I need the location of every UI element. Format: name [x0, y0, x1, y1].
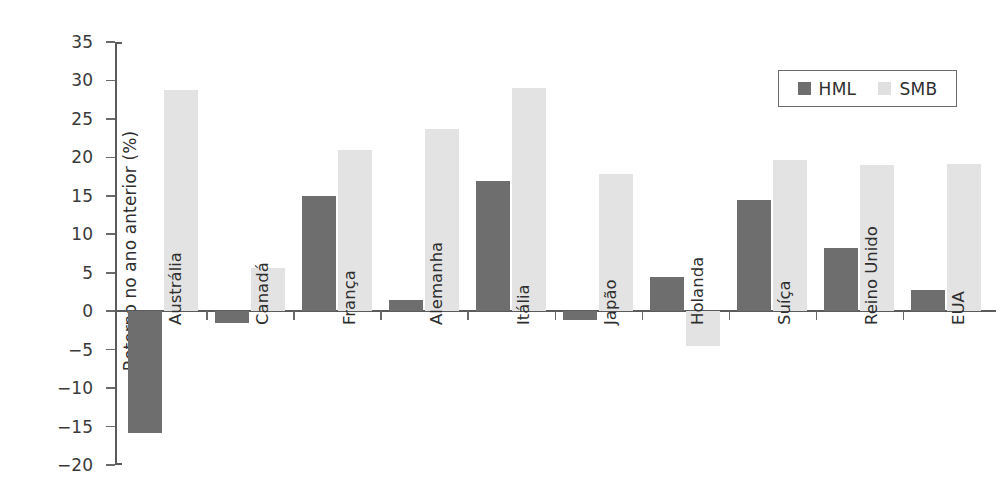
y-tick-label: −5	[68, 340, 93, 360]
x-tick	[555, 311, 557, 320]
y-tick-label: 5	[82, 263, 93, 283]
x-tick	[816, 311, 818, 320]
y-tick-25	[106, 118, 115, 120]
bar-smb-4	[512, 88, 546, 311]
y-tick--15	[106, 426, 115, 428]
bar-hml-5	[563, 311, 597, 320]
y-tick-0	[106, 310, 115, 312]
y-tick-label: 35	[71, 32, 93, 52]
y-axis-spine	[115, 42, 117, 465]
y-axis-cap-bottom	[115, 463, 122, 465]
bar-hml-7	[737, 200, 771, 312]
x-tick	[293, 311, 295, 320]
bar-hml-2	[302, 196, 336, 311]
category-label-1: Canadá	[253, 262, 272, 325]
category-label-3: Alemanha	[427, 242, 446, 325]
y-tick-label: 30	[71, 70, 93, 90]
y-axis-cap-top	[115, 42, 122, 44]
y-tick-label: 15	[71, 186, 93, 206]
y-tick-label: −10	[57, 378, 93, 398]
y-tick--20	[106, 464, 115, 466]
x-tick	[206, 311, 208, 320]
category-label-6: Holanda	[688, 257, 707, 325]
category-label-2: França	[340, 270, 359, 325]
y-tick-label: −15	[57, 417, 93, 437]
x-tick	[467, 311, 469, 320]
bar-chart: Retorno no ano anterior (%) 353025201510…	[0, 0, 1006, 501]
x-tick	[729, 311, 731, 320]
category-label-0: Austrália	[166, 252, 185, 325]
bar-hml-1	[215, 311, 249, 323]
y-tick-10	[106, 233, 115, 235]
y-tick-5	[106, 272, 115, 274]
y-tick-label: 20	[71, 147, 93, 167]
category-label-7: Suíça	[775, 280, 794, 325]
y-tick-label: 0	[82, 301, 93, 321]
legend-item-smb: SMB	[878, 79, 937, 99]
category-label-5: Japão	[601, 280, 620, 326]
legend-swatch-smb-icon	[878, 82, 891, 95]
x-tick	[380, 311, 382, 320]
chart-legend: HML SMB	[778, 70, 957, 107]
bar-hml-4	[476, 181, 510, 311]
y-tick-20	[106, 157, 115, 159]
bar-hml-3	[389, 300, 423, 312]
category-label-9: EUA	[949, 291, 968, 325]
y-tick-30	[106, 80, 115, 82]
legend-item-hml: HML	[798, 79, 857, 99]
y-tick-label: −20	[57, 455, 93, 475]
y-tick-15	[106, 195, 115, 197]
x-tick	[642, 311, 644, 320]
bar-hml-9	[911, 290, 945, 312]
bar-hml-6	[650, 277, 684, 312]
y-tick-label: 10	[71, 224, 93, 244]
category-label-8: Reino Unido	[862, 226, 881, 325]
legend-label-smb: SMB	[899, 79, 937, 99]
category-label-4: Itália	[514, 284, 533, 325]
y-tick-label: 25	[71, 109, 93, 129]
y-tick--5	[106, 349, 115, 351]
bar-hml-8	[824, 248, 858, 311]
y-tick-35	[106, 41, 115, 43]
x-tick	[903, 311, 905, 320]
legend-swatch-hml-icon	[798, 82, 811, 95]
bar-hml-0	[128, 311, 162, 433]
y-tick--10	[106, 387, 115, 389]
bar-smb-9	[947, 164, 981, 311]
legend-label-hml: HML	[819, 79, 857, 99]
